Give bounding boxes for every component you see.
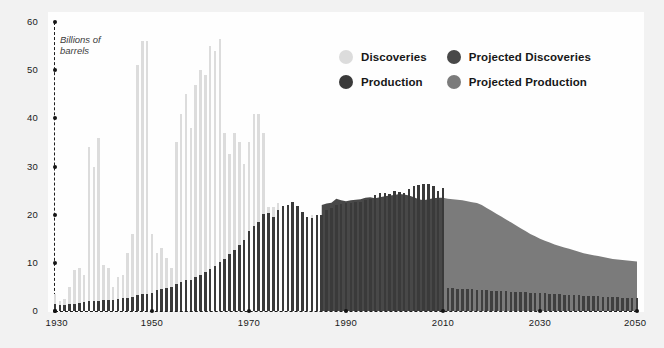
production-swatch-icon [339, 75, 353, 89]
bar [93, 301, 96, 311]
bar [616, 297, 619, 311]
bar [228, 254, 231, 311]
bar [175, 284, 178, 311]
bar [461, 289, 464, 311]
bar [117, 299, 120, 311]
bar [631, 298, 634, 311]
bar [316, 215, 319, 311]
bar [582, 296, 585, 311]
bar [548, 294, 551, 311]
bar [112, 300, 115, 311]
bar [413, 186, 416, 311]
bar [59, 305, 62, 311]
x-tick-dot [635, 309, 639, 313]
bar [248, 231, 251, 311]
bar [379, 193, 382, 311]
bar [476, 290, 479, 311]
legend-item-projected-production[interactable]: Projected Production [447, 75, 591, 89]
bar [325, 210, 328, 311]
bar [621, 298, 624, 311]
bar [587, 296, 590, 311]
bar [563, 295, 566, 311]
bar [505, 291, 508, 311]
bar [481, 290, 484, 311]
bar [568, 295, 571, 311]
bar [350, 203, 353, 311]
bar [122, 298, 125, 311]
x-tick-dot [150, 309, 154, 313]
bar [553, 294, 556, 311]
y-tick-dot [53, 165, 57, 169]
x-tick-dot [538, 309, 542, 313]
bar [257, 222, 260, 311]
y-tick-label: 30 [27, 161, 38, 172]
bar [253, 226, 256, 311]
bar [611, 297, 614, 311]
bar [466, 289, 469, 311]
bar [180, 282, 183, 311]
legend-item-discoveries[interactable]: Discoveries [339, 50, 427, 64]
bar [403, 193, 406, 311]
bar [233, 250, 236, 311]
bar [519, 292, 522, 311]
bar [160, 289, 163, 311]
bar [107, 300, 110, 311]
bar [495, 291, 498, 311]
bar [146, 294, 149, 311]
bar [558, 294, 561, 311]
bar [73, 304, 76, 311]
bar [597, 296, 600, 311]
bar [544, 293, 547, 311]
projected-discoveries-swatch-icon [447, 50, 461, 64]
x-tick-label: 2030 [529, 317, 551, 328]
bar [214, 266, 217, 311]
bar [296, 206, 299, 311]
bar [306, 217, 309, 311]
bar [209, 269, 212, 311]
bar [199, 275, 202, 311]
y-tick-label: 10 [27, 257, 38, 268]
bar [126, 298, 129, 311]
bar [340, 204, 343, 311]
bar [345, 203, 348, 311]
bar [514, 292, 517, 311]
x-tick-label: 2050 [624, 317, 646, 328]
bar [320, 215, 323, 311]
bar [447, 288, 450, 311]
bar [131, 297, 134, 311]
y-tick-dot [53, 213, 57, 217]
bar [437, 191, 440, 311]
legend-item-production[interactable]: Production [339, 75, 427, 89]
legend-item-projected-discoveries[interactable]: Projected Discoveries [447, 50, 591, 64]
x-tick-dot [247, 309, 251, 313]
bar [500, 291, 503, 311]
bar [408, 189, 411, 311]
bar [374, 195, 377, 311]
bar [369, 199, 372, 311]
y-tick-label: 60 [27, 16, 38, 27]
x-tick-dot [53, 309, 57, 313]
bar [78, 303, 81, 311]
legend-label-projected-discoveries: Projected Discoveries [469, 51, 591, 63]
bar [330, 208, 333, 311]
bar [190, 280, 193, 311]
bar [359, 202, 362, 311]
bar [388, 194, 391, 311]
bar [83, 302, 86, 311]
bar [529, 293, 532, 311]
y-tick-dot [53, 261, 57, 265]
bar [301, 212, 304, 311]
bar [490, 291, 493, 311]
bar [170, 287, 173, 311]
bar [602, 297, 605, 311]
bar [219, 262, 222, 311]
x-tick-label: 2010 [432, 317, 454, 328]
y-tick-label: 0 [33, 305, 38, 316]
y-tick-label: 20 [27, 209, 38, 220]
bar [427, 184, 430, 311]
bar [417, 185, 420, 311]
bar [311, 218, 314, 311]
x-tick-label: 1930 [46, 317, 68, 328]
bar [573, 295, 576, 311]
x-tick-dot [441, 309, 445, 313]
